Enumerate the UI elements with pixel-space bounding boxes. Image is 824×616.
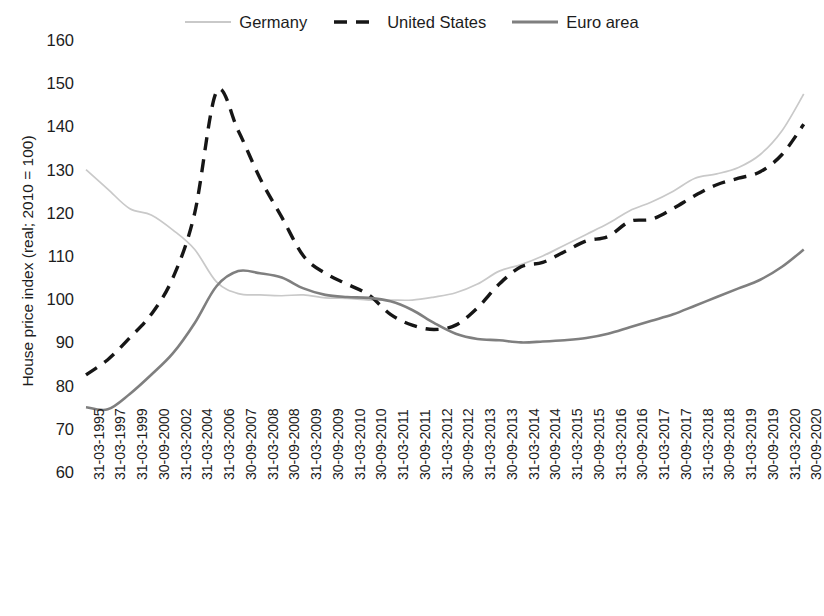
x-tick-30-09-2015: 30-09-2015 xyxy=(592,408,606,480)
x-tick-30-09-2017: 30-09-2017 xyxy=(679,408,693,480)
x-tick-30-09-2009: 30-09-2009 xyxy=(331,408,345,480)
house-price-index-chart: Germany United States Euro area House p xyxy=(0,0,824,616)
x-tick-31-03-1995: 31-03-1995 xyxy=(92,408,106,480)
x-tick-30-09-2011: 30-09-2011 xyxy=(418,409,432,480)
x-tick-31-03-2008: 31-03-2008 xyxy=(266,408,280,480)
x-tick-31-03-2002: 31-03-2002 xyxy=(179,408,193,480)
x-tick-30-09-2012: 30-09-2012 xyxy=(461,408,475,480)
x-tick-31-03-2012: 31-03-2012 xyxy=(440,408,454,480)
x-tick-31-03-1999: 31-03-1999 xyxy=(135,408,149,480)
x-tick-31-03-2011: 31-03-2011 xyxy=(396,409,410,480)
x-tick-31-03-2014: 31-03-2014 xyxy=(527,408,541,480)
x-tick-31-03-1997: 31-03-1997 xyxy=(113,408,127,480)
y-tick-160: 160 xyxy=(28,32,74,49)
x-tick-31-03-2015: 31-03-2015 xyxy=(570,408,584,480)
x-tick-30-09-2014: 30-09-2014 xyxy=(548,408,562,480)
y-tick-70: 70 xyxy=(28,421,74,438)
x-tick-31-03-2004: 31-03-2004 xyxy=(200,408,214,480)
x-tick-30-09-2013: 30-09-2013 xyxy=(505,408,519,480)
x-tick-31-03-2017: 31-03-2017 xyxy=(657,408,671,480)
y-tick-100: 100 xyxy=(28,291,74,308)
x-tick-31-03-2010: 31-03-2010 xyxy=(353,408,367,480)
x-tick-31-03-2006: 31-03-2006 xyxy=(222,408,236,480)
y-tick-60: 60 xyxy=(28,464,74,481)
series-line-euro-area xyxy=(86,250,804,410)
plot-area xyxy=(0,0,824,616)
series-line-germany xyxy=(86,94,804,300)
y-tick-140: 140 xyxy=(28,118,74,135)
y-tick-90: 90 xyxy=(28,334,74,351)
x-tick-30-09-2020: 30-09-2020 xyxy=(809,408,823,480)
x-tick-31-03-2016: 31-03-2016 xyxy=(614,408,628,480)
y-tick-130: 130 xyxy=(28,162,74,179)
x-tick-30-09-2018: 30-09-2018 xyxy=(722,408,736,480)
x-tick-30-09-2000: 30-09-2000 xyxy=(157,408,171,480)
x-tick-30-09-2016: 30-09-2016 xyxy=(635,408,649,480)
x-tick-31-03-2013: 31-03-2013 xyxy=(483,408,497,480)
y-tick-80: 80 xyxy=(28,378,74,395)
y-tick-110: 110 xyxy=(28,248,74,265)
x-tick-31-03-2009: 31-03-2009 xyxy=(309,408,323,480)
x-tick-30-09-2007: 30-09-2007 xyxy=(244,408,258,480)
y-tick-120: 120 xyxy=(28,205,74,222)
x-tick-31-03-2020: 31-03-2020 xyxy=(788,408,802,480)
x-tick-30-09-2008: 30-09-2008 xyxy=(287,408,301,480)
series-line-united-states xyxy=(86,89,804,375)
x-tick-30-09-2019: 30-09-2019 xyxy=(766,408,780,480)
x-tick-31-03-2019: 31-03-2019 xyxy=(744,408,758,480)
series-canvas xyxy=(0,0,824,616)
y-tick-150: 150 xyxy=(28,75,74,92)
x-tick-31-03-2018: 31-03-2018 xyxy=(701,408,715,480)
x-tick-30-09-2010: 30-09-2010 xyxy=(374,408,388,480)
